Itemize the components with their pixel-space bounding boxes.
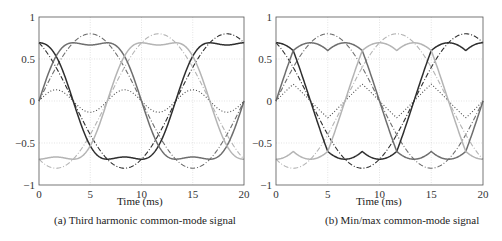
x-tick-label: 20 <box>239 188 251 200</box>
y-tick-label: −0.5 <box>252 137 272 149</box>
y-tick-label: 0.5 <box>258 53 272 65</box>
y-tick-label: 0.5 <box>21 53 35 65</box>
x-tick-label: 20 <box>478 188 490 200</box>
x-axis-label: Time (ms) <box>117 195 163 207</box>
x-tick-label: 0 <box>273 188 279 200</box>
y-tick-label: 1 <box>267 11 273 23</box>
x-tick-label: 15 <box>187 188 199 200</box>
y-tick-label: 0 <box>267 95 273 107</box>
chart-panel-a: 05101520−1−0.500.51 Time (ms) (a) Third … <box>0 0 251 241</box>
y-tick-label: −0.5 <box>15 137 35 149</box>
x-tick-label: 5 <box>325 188 331 200</box>
figure-caption: (b) Min/max common-mode signal <box>325 214 479 226</box>
y-tick-label: −1 <box>260 179 272 191</box>
y-tick-label: 1 <box>30 11 36 23</box>
x-tick-label: 15 <box>426 188 438 200</box>
y-tick-label: −1 <box>23 179 35 191</box>
chart-panel-b: 05101520−1−0.500.51 Time (ms) (b) Min/ma… <box>251 0 502 241</box>
figure-caption: (a) Third harmonic common-mode signal <box>54 214 236 226</box>
x-axis-label: Time (ms) <box>356 195 402 207</box>
y-tick-label: 0 <box>30 95 36 107</box>
x-tick-label: 5 <box>88 188 94 200</box>
x-tick-label: 0 <box>36 188 42 200</box>
